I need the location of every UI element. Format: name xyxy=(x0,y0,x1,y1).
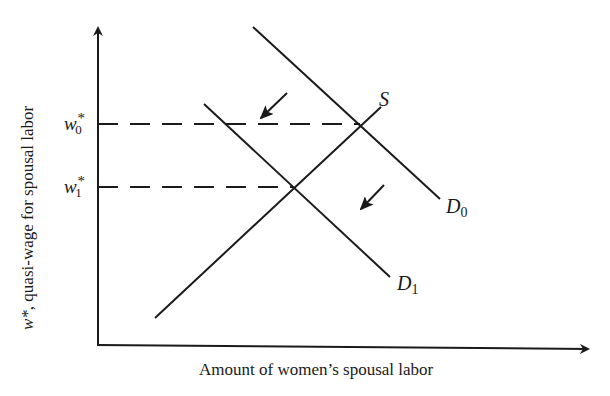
x-axis xyxy=(97,345,588,349)
y-axis-var: w* xyxy=(18,310,37,330)
w0-sub: 0 xyxy=(75,122,82,137)
w0-star-label: w*0 xyxy=(64,110,82,138)
s-label-text: S xyxy=(379,88,389,110)
demand-curve-d1 xyxy=(204,104,390,277)
x-axis-label: Amount of women’s spousal labor xyxy=(199,360,433,380)
demand-d1-label: D1 xyxy=(397,272,418,298)
supply-curve-label: S xyxy=(379,88,389,111)
d1-sub: 1 xyxy=(411,282,418,297)
demand-curve-d0 xyxy=(253,27,440,199)
w1-star-label: w*1 xyxy=(64,173,82,201)
demand-d0-label: D0 xyxy=(446,195,467,221)
d0-sub: 0 xyxy=(460,205,467,220)
shift-arrow-icon xyxy=(361,185,384,209)
shift-arrow-icon xyxy=(261,93,287,118)
d0-label-text: D xyxy=(446,195,460,217)
y-axis-text: , quasi-wage for spousal labor xyxy=(18,106,37,310)
supply-curve-s xyxy=(155,107,381,318)
supply-demand-diagram xyxy=(0,0,610,396)
w1-sub: 1 xyxy=(75,185,82,200)
d1-label-text: D xyxy=(397,272,411,294)
